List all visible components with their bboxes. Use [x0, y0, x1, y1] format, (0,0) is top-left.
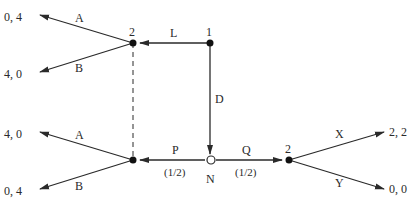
payoff-bottom-B: 0, 4	[4, 184, 22, 198]
edge-B-top	[40, 43, 133, 72]
edge-prob-P: (1/2)	[164, 166, 186, 179]
edge-label-B-top: B	[75, 61, 83, 75]
decision-node-player1	[207, 40, 214, 47]
payoff-bottom-A: 4, 0	[4, 127, 22, 141]
edge-label-P: P	[172, 143, 179, 157]
edge-prob-Q: (1/2)	[235, 166, 257, 179]
edge-label-Q: Q	[242, 143, 251, 157]
node-label-player1: 1	[206, 25, 212, 39]
chance-node-nature	[207, 156, 215, 164]
payoff-top-A: 0, 4	[4, 10, 22, 24]
payoff-top-B: 4, 0	[4, 67, 22, 81]
node-label-nature: N	[206, 172, 215, 186]
edge-label-D: D	[215, 92, 224, 106]
node-label-player2-top: 2	[129, 25, 135, 39]
game-tree-canvas: 1 2 N 2 L D A B A B P (1/2) Q (1/2) X Y …	[0, 0, 419, 205]
game-tree-diagram: 1 2 N 2 L D A B A B P (1/2) Q (1/2) X Y …	[0, 0, 419, 205]
edge-label-B-bottom: B	[75, 179, 83, 193]
decision-node-player2-bottom-left	[130, 157, 137, 164]
edge-label-A-top: A	[75, 11, 84, 25]
node-label-player2-right: 2	[285, 142, 291, 156]
edge-label-L: L	[170, 26, 177, 40]
decision-node-player2-top	[130, 40, 137, 47]
edge-A-top	[40, 15, 133, 43]
edge-B-bottom	[40, 160, 133, 189]
edge-label-A-bottom: A	[75, 128, 84, 142]
payoff-right-Y: 0, 0	[389, 182, 407, 196]
payoff-right-X: 2, 2	[389, 125, 407, 139]
edge-A-bottom	[40, 132, 133, 160]
edge-label-Y: Y	[335, 176, 344, 190]
decision-node-player2-right	[286, 157, 293, 164]
edge-label-X: X	[335, 127, 344, 141]
